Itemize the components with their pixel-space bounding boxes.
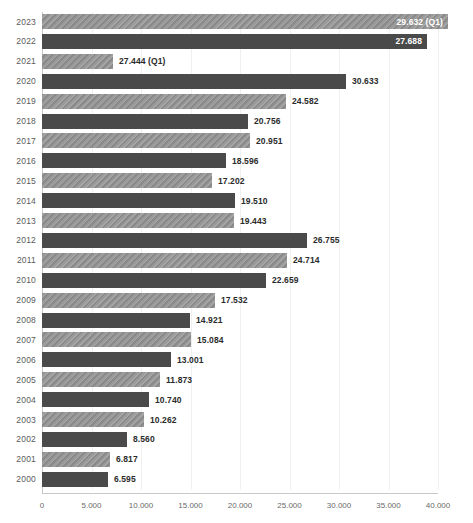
bar-value-label: 20.951 bbox=[256, 136, 283, 146]
bar bbox=[42, 114, 248, 129]
bar-value-label: 27.444 (Q1) bbox=[119, 56, 165, 66]
bar-value-label: 8.560 bbox=[133, 434, 155, 444]
x-axis-tick-label: 10.000 bbox=[129, 501, 153, 510]
y-axis-tick-label: 2002 bbox=[16, 434, 36, 444]
bar-value-label: 20.756 bbox=[254, 116, 281, 126]
y-axis-tick-label: 2017 bbox=[16, 136, 36, 146]
bar bbox=[42, 34, 427, 49]
chart-row: 201319.443 bbox=[42, 213, 438, 228]
chart-row: 202329.632 (Q1) bbox=[42, 14, 438, 29]
bar bbox=[42, 372, 160, 387]
y-axis-tick-label: 2015 bbox=[16, 176, 36, 186]
y-axis-tick-label: 2018 bbox=[16, 116, 36, 126]
bar bbox=[42, 173, 212, 188]
chart-row: 20016.817 bbox=[42, 452, 438, 467]
chart-row: 201124.714 bbox=[42, 253, 438, 268]
chart-row: 202227.688 bbox=[42, 34, 438, 49]
x-axis-line bbox=[42, 493, 438, 494]
bar-value-label: 26.755 bbox=[313, 235, 340, 245]
bar bbox=[42, 153, 226, 168]
bar-value-label: 19.443 bbox=[240, 216, 267, 226]
bar-value-label: 10.740 bbox=[155, 395, 182, 405]
chart-row: 201820.756 bbox=[42, 114, 438, 129]
bar bbox=[42, 74, 346, 89]
bar-value-label: 13.001 bbox=[177, 355, 204, 365]
bar bbox=[42, 14, 448, 29]
bar-value-label: 27.688 bbox=[395, 36, 422, 46]
bar-value-label: 11.873 bbox=[166, 375, 192, 385]
bar bbox=[42, 273, 266, 288]
x-axis-tick-label: 25.000 bbox=[277, 501, 301, 510]
bar-value-label: 6.595 bbox=[114, 474, 136, 484]
bar-value-label: 18.596 bbox=[232, 156, 259, 166]
y-axis-tick-label: 2001 bbox=[16, 454, 36, 464]
chart-row: 201022.659 bbox=[42, 273, 438, 288]
bar-value-label: 30.633 bbox=[352, 76, 379, 86]
chart-row: 200613.001 bbox=[42, 352, 438, 367]
bar bbox=[42, 332, 191, 347]
bar bbox=[42, 432, 127, 447]
y-axis-tick-label: 2014 bbox=[16, 196, 36, 206]
y-axis-tick-label: 2010 bbox=[16, 275, 36, 285]
bar-value-label: 17.532 bbox=[221, 295, 248, 305]
x-axis-tick-label: 30.000 bbox=[327, 501, 351, 510]
chart-row: 201517.202 bbox=[42, 173, 438, 188]
x-axis-tick-label: 20.000 bbox=[228, 501, 252, 510]
chart-row: 201924.582 bbox=[42, 94, 438, 109]
y-axis-tick-label: 2013 bbox=[16, 216, 36, 226]
bar bbox=[42, 313, 190, 328]
y-axis-tick-label: 2004 bbox=[16, 395, 36, 405]
bar-value-label: 29.632 (Q1) bbox=[397, 17, 443, 27]
y-axis-tick-label: 2006 bbox=[16, 355, 36, 365]
y-axis-tick-label: 2023 bbox=[16, 17, 36, 27]
y-axis-tick-label: 2012 bbox=[16, 235, 36, 245]
x-axis-tick-label: 5.000 bbox=[81, 501, 101, 510]
chart-row: 202030.633 bbox=[42, 74, 438, 89]
chart-row: 202127.444 (Q1) bbox=[42, 54, 438, 69]
y-axis-tick-label: 2022 bbox=[16, 36, 36, 46]
bar bbox=[42, 472, 108, 487]
bar-value-label: 19.510 bbox=[241, 196, 268, 206]
y-axis-tick-label: 2009 bbox=[16, 295, 36, 305]
bar-value-label: 24.714 bbox=[293, 255, 320, 265]
chart-row: 201618.596 bbox=[42, 153, 438, 168]
x-axis-tick-label: 15.000 bbox=[178, 501, 202, 510]
chart-row: 201226.755 bbox=[42, 233, 438, 248]
bar bbox=[42, 253, 287, 268]
bar-value-label: 15.084 bbox=[197, 335, 224, 345]
bar bbox=[42, 213, 234, 228]
chart-row: 201419.510 bbox=[42, 193, 438, 208]
y-axis-tick-label: 2003 bbox=[16, 415, 36, 425]
plot-area: 202329.632 (Q1)202227.688202127.444 (Q1)… bbox=[42, 12, 438, 490]
bar-value-label: 17.202 bbox=[218, 176, 245, 186]
y-axis-tick-label: 2021 bbox=[16, 56, 36, 66]
bar bbox=[42, 352, 171, 367]
x-axis: 05.00010.00015.00020.00025.00030.00035.0… bbox=[42, 493, 438, 519]
chart-row: 20028.560 bbox=[42, 432, 438, 447]
x-axis-tick-label: 35.000 bbox=[376, 501, 400, 510]
chart-row: 200310.262 bbox=[42, 412, 438, 427]
bar-chart: 202329.632 (Q1)202227.688202127.444 (Q1)… bbox=[0, 0, 473, 523]
bar bbox=[42, 94, 286, 109]
bar bbox=[42, 133, 250, 148]
chart-row: 20006.595 bbox=[42, 472, 438, 487]
y-axis-tick-label: 2008 bbox=[16, 315, 36, 325]
bar bbox=[42, 412, 144, 427]
y-axis-tick-label: 2000 bbox=[16, 474, 36, 484]
bar-value-label: 10.262 bbox=[150, 415, 177, 425]
bar-value-label: 14.921 bbox=[196, 315, 223, 325]
y-axis-tick-label: 2007 bbox=[16, 335, 36, 345]
bar bbox=[42, 193, 235, 208]
chart-row: 200715.084 bbox=[42, 332, 438, 347]
y-axis-tick-label: 2020 bbox=[16, 76, 36, 86]
chart-row: 200410.740 bbox=[42, 392, 438, 407]
y-axis-tick-label: 2016 bbox=[16, 156, 36, 166]
bar bbox=[42, 293, 215, 308]
bar-value-label: 22.659 bbox=[272, 275, 299, 285]
bar-value-label: 24.582 bbox=[292, 96, 319, 106]
x-axis-tick-label: 0 bbox=[40, 501, 44, 510]
chart-row: 201720.951 bbox=[42, 133, 438, 148]
chart-row: 200917.532 bbox=[42, 293, 438, 308]
bar bbox=[42, 392, 149, 407]
bar bbox=[42, 233, 307, 248]
